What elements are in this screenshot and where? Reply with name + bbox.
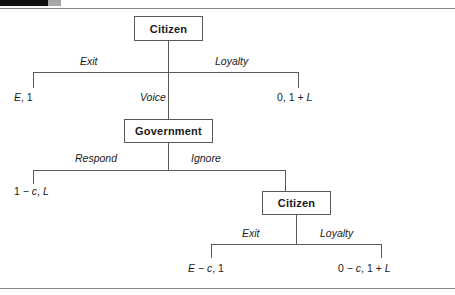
edge-label-loyalty-top: Loyalty <box>213 55 250 67</box>
edge-root-stem <box>168 41 169 72</box>
edge-label-respond: Respond <box>73 152 119 164</box>
edge-exit-top-drop <box>33 72 34 88</box>
page-marker-black-bar <box>0 0 48 6</box>
edge-label-loyalty-bottom: Loyalty <box>318 227 355 239</box>
edge-loyalty-bottom-drop <box>381 244 382 258</box>
node-root-citizen: Citizen <box>134 16 203 41</box>
top-rule <box>0 8 455 9</box>
node-second-citizen-label: Citizen <box>278 197 315 209</box>
edge-bar-level1 <box>33 72 299 73</box>
edge-label-exit-top: Exit <box>78 55 100 67</box>
payoff-respond: 1 − c, L <box>14 185 49 197</box>
payoff-loyalty-bottom: 0 − c, 1 + L <box>338 262 391 274</box>
edge-label-ignore: Ignore <box>189 152 223 164</box>
edge-ignore-drop <box>285 170 286 191</box>
node-government: Government <box>124 119 213 143</box>
page-marker-gray-bar <box>48 0 61 6</box>
edge-bar-level3 <box>211 244 381 245</box>
node-second-citizen: Citizen <box>262 191 331 215</box>
edge-second-citizen-stem <box>296 215 297 244</box>
edge-label-voice: Voice <box>138 91 168 103</box>
edge-label-exit-bottom: Exit <box>240 227 262 239</box>
game-tree-figure: Citizen Exit Loyalty Voice E, 1 0, 1 + L… <box>0 0 455 295</box>
payoff-exit-bottom: E − c, 1 <box>188 262 224 274</box>
edge-respond-drop <box>33 170 34 184</box>
edge-voice-drop <box>168 72 169 119</box>
node-government-label: Government <box>135 125 202 137</box>
payoff-loyalty-top: 0, 1 + L <box>277 91 312 103</box>
edge-exit-bottom-drop <box>211 244 212 258</box>
bottom-rule <box>0 288 455 289</box>
payoff-exit-top: E, 1 <box>14 91 33 103</box>
node-root-citizen-label: Citizen <box>150 23 187 35</box>
edge-bar-level2 <box>33 170 285 171</box>
edge-government-stem <box>168 143 169 170</box>
edge-loyalty-top-drop <box>298 72 299 88</box>
